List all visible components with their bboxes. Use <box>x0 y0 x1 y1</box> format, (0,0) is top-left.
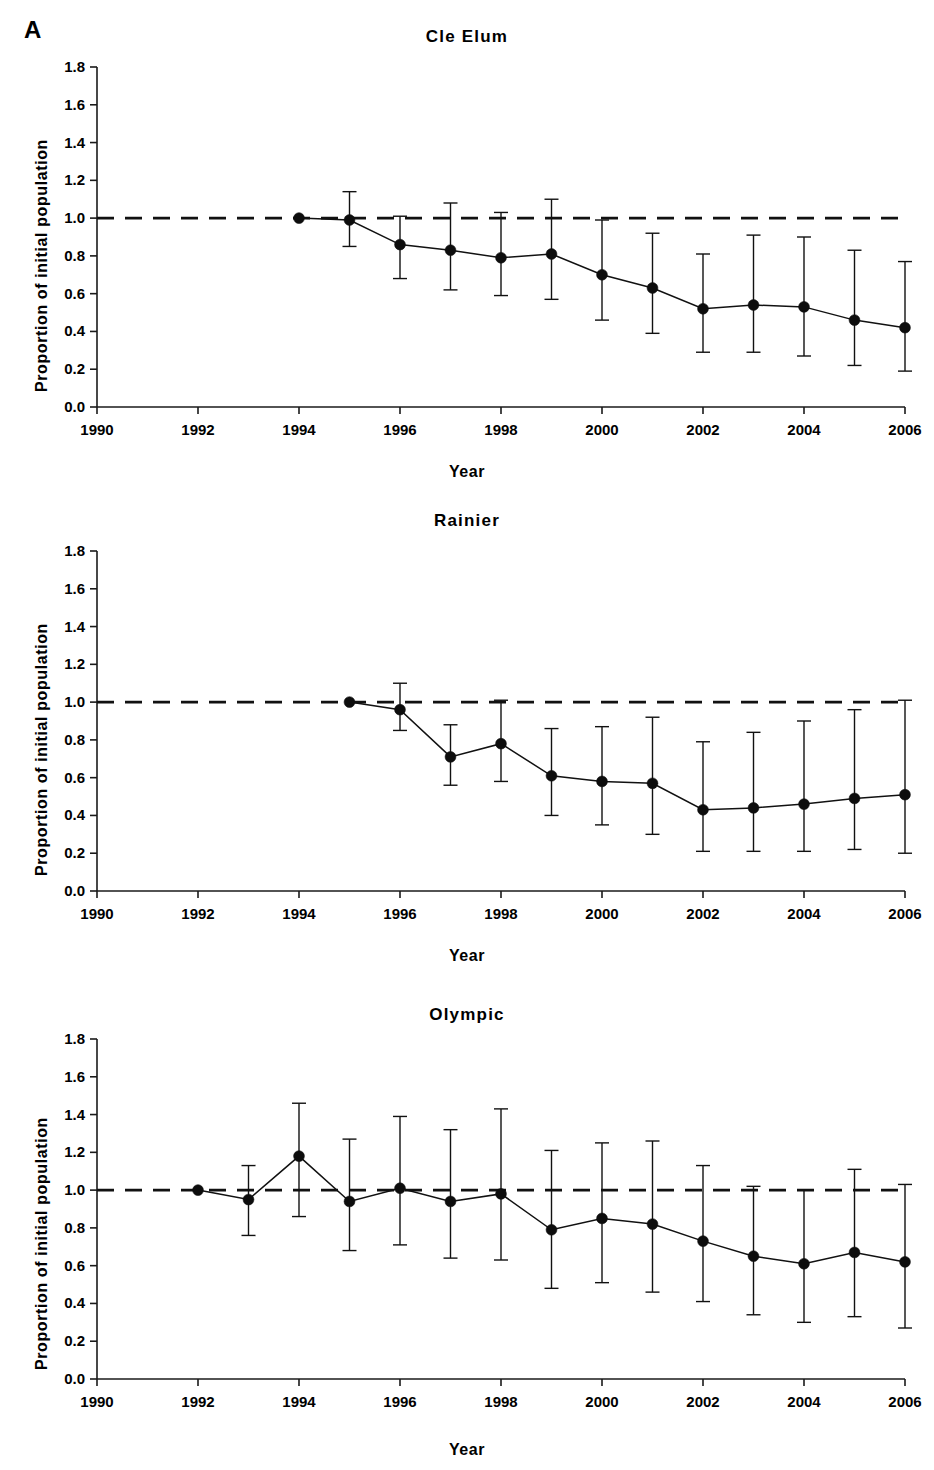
figure-container: A Cle Elum Proportion of initial populat… <box>0 0 934 1470</box>
plot-area-olympic: 0.00.20.40.60.81.01.21.41.61.81990199219… <box>0 980 934 1470</box>
y-tick-label: 1.4 <box>64 1106 86 1123</box>
x-tick-label: 2000 <box>585 421 618 438</box>
y-tick-label: 1.6 <box>64 580 85 597</box>
y-tick-label: 0.8 <box>64 1219 85 1236</box>
data-point-marker <box>193 1185 204 1196</box>
x-tick-label: 2006 <box>888 421 921 438</box>
data-point-marker <box>698 1236 709 1247</box>
y-tick-label: 0.0 <box>64 1370 85 1387</box>
data-point-marker <box>698 804 709 815</box>
data-point-marker <box>748 802 759 813</box>
data-point-marker <box>799 301 810 312</box>
y-tick-label: 0.4 <box>64 322 86 339</box>
x-tick-label: 1996 <box>383 905 416 922</box>
y-tick-label: 1.2 <box>64 1143 85 1160</box>
data-point-marker <box>294 1151 305 1162</box>
data-point-marker <box>647 1219 658 1230</box>
x-tick-label: 2004 <box>787 1393 821 1410</box>
y-tick-label: 0.6 <box>64 769 85 786</box>
y-tick-label: 0.0 <box>64 882 85 899</box>
panel-rainier: Rainier Proportion of initial population… <box>0 490 934 980</box>
y-tick-label: 1.0 <box>64 693 85 710</box>
data-point-marker <box>900 789 911 800</box>
data-point-marker <box>900 322 911 333</box>
data-point-marker <box>395 1183 406 1194</box>
x-tick-label: 1992 <box>181 421 214 438</box>
y-tick-label: 1.2 <box>64 655 85 672</box>
data-point-marker <box>445 245 456 256</box>
data-point-marker <box>799 799 810 810</box>
plot-area-cle-elum: 0.00.20.40.60.81.01.21.41.61.81990199219… <box>0 0 934 490</box>
data-point-marker <box>647 283 658 294</box>
data-point-marker <box>496 1188 507 1199</box>
data-point-marker <box>294 213 305 224</box>
panel-cle-elum: A Cle Elum Proportion of initial populat… <box>0 0 934 490</box>
data-point-marker <box>849 1247 860 1258</box>
data-point-marker <box>597 1213 608 1224</box>
x-tick-label: 2002 <box>686 905 719 922</box>
data-point-marker <box>748 1251 759 1262</box>
y-tick-label: 0.2 <box>64 844 85 861</box>
series-line <box>350 702 906 810</box>
x-tick-label: 1990 <box>80 421 113 438</box>
x-tick-label: 1998 <box>484 905 517 922</box>
x-tick-label: 2006 <box>888 1393 921 1410</box>
panel-olympic: Olympic Proportion of initial population… <box>0 980 934 1470</box>
y-tick-label: 0.6 <box>64 1257 85 1274</box>
data-point-marker <box>496 252 507 263</box>
x-tick-label: 2000 <box>585 1393 618 1410</box>
y-tick-label: 0.2 <box>64 360 85 377</box>
x-tick-label: 2002 <box>686 421 719 438</box>
data-point-marker <box>849 315 860 326</box>
data-point-marker <box>698 303 709 314</box>
y-tick-label: 0.6 <box>64 285 85 302</box>
x-tick-label: 2004 <box>787 421 821 438</box>
x-tick-label: 1994 <box>282 1393 316 1410</box>
y-tick-label: 0.4 <box>64 806 86 823</box>
data-point-marker <box>344 1196 355 1207</box>
y-tick-label: 1.6 <box>64 1068 85 1085</box>
data-point-marker <box>546 249 557 260</box>
y-tick-label: 0.2 <box>64 1332 85 1349</box>
x-tick-label: 1994 <box>282 421 316 438</box>
x-tick-label: 1992 <box>181 1393 214 1410</box>
data-point-marker <box>496 738 507 749</box>
data-point-marker <box>546 770 557 781</box>
x-tick-label: 1990 <box>80 905 113 922</box>
data-point-marker <box>799 1258 810 1269</box>
data-point-marker <box>445 751 456 762</box>
data-point-marker <box>243 1194 254 1205</box>
data-point-marker <box>748 300 759 311</box>
y-tick-label: 1.4 <box>64 134 86 151</box>
data-point-marker <box>597 776 608 787</box>
y-tick-label: 1.8 <box>64 58 85 75</box>
x-tick-label: 1996 <box>383 421 416 438</box>
data-point-marker <box>445 1196 456 1207</box>
y-tick-label: 1.6 <box>64 96 85 113</box>
data-point-marker <box>395 704 406 715</box>
y-tick-label: 1.0 <box>64 1181 85 1198</box>
x-tick-label: 2002 <box>686 1393 719 1410</box>
plot-area-rainier: 0.00.20.40.60.81.01.21.41.61.81990199219… <box>0 490 934 980</box>
y-tick-label: 1.8 <box>64 1030 85 1047</box>
y-tick-label: 1.0 <box>64 209 85 226</box>
data-point-marker <box>344 215 355 226</box>
y-tick-label: 1.8 <box>64 542 85 559</box>
x-tick-label: 1992 <box>181 905 214 922</box>
y-tick-label: 0.8 <box>64 731 85 748</box>
y-tick-label: 0.0 <box>64 398 85 415</box>
x-tick-label: 1998 <box>484 1393 517 1410</box>
x-tick-label: 1998 <box>484 421 517 438</box>
data-point-marker <box>849 793 860 804</box>
y-tick-label: 1.2 <box>64 171 85 188</box>
x-tick-label: 1996 <box>383 1393 416 1410</box>
x-tick-label: 2006 <box>888 905 921 922</box>
y-tick-label: 0.4 <box>64 1294 86 1311</box>
x-tick-label: 1994 <box>282 905 316 922</box>
data-point-marker <box>597 269 608 280</box>
y-tick-label: 1.4 <box>64 618 86 635</box>
x-tick-label: 2000 <box>585 905 618 922</box>
data-point-marker <box>647 778 658 789</box>
data-point-marker <box>900 1256 911 1267</box>
data-point-marker <box>395 239 406 250</box>
